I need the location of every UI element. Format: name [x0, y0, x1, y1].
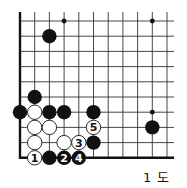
white-stone [57, 135, 71, 149]
go-board: 53124 [0, 0, 187, 188]
black-stone [57, 105, 71, 119]
black-stone [86, 105, 100, 119]
black-stone [13, 105, 27, 119]
move-number-label: 1 [31, 152, 39, 165]
hoshi-point [62, 19, 67, 24]
move-number-label: 3 [75, 137, 83, 150]
white-stone [28, 120, 42, 134]
hoshi-point [150, 19, 155, 24]
white-stone [28, 105, 42, 119]
black-stone [86, 135, 100, 149]
hoshi-point [150, 110, 155, 115]
move-number-label: 2 [60, 152, 68, 165]
move-number-label: 5 [90, 121, 98, 134]
black-stone [42, 105, 56, 119]
black-stone [42, 151, 56, 165]
move-number-label: 4 [75, 152, 83, 165]
black-stone [28, 90, 42, 104]
white-stone [42, 120, 56, 134]
black-stone [42, 29, 56, 43]
diagram-caption: 1 도 [143, 167, 170, 186]
white-stone [28, 135, 42, 149]
black-stone [145, 120, 159, 134]
